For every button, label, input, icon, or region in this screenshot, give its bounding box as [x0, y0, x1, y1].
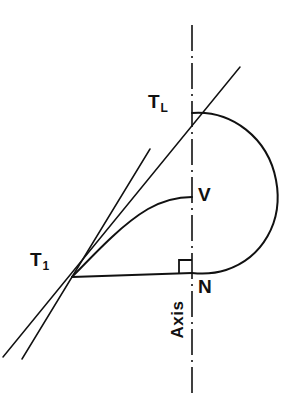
diagram-canvas: TL T1 V N Axis: [0, 0, 288, 418]
label-axis: Axis: [169, 301, 186, 339]
chord-t1-n: [72, 273, 192, 277]
tangent-line-long: [3, 67, 240, 357]
label-tangent-long: TL: [148, 92, 167, 111]
geometry-figure: [0, 0, 288, 418]
label-tangent-first: T1: [30, 250, 48, 269]
inner-curve: [72, 197, 192, 277]
label-normal-point: N: [198, 277, 212, 296]
label-vertex: V: [198, 185, 211, 204]
label-tangent-long-subscript: L: [161, 101, 168, 115]
right-angle-marker: [179, 260, 192, 273]
label-tangent-first-subscript: 1: [43, 259, 50, 273]
label-tangent-long-base: T: [148, 91, 160, 112]
label-tangent-first-base: T: [30, 249, 42, 270]
